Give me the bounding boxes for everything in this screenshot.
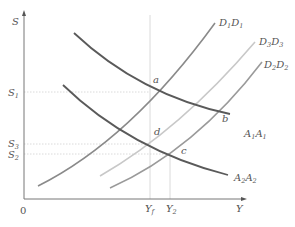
diagram-canvas: S Y 0 S1 S3 S2 Yf Y2 D1D1 D3D3 D2D2 A1A1… xyxy=(0,0,295,227)
curve-d3d3 xyxy=(100,42,255,176)
point-c: c xyxy=(181,145,187,156)
tick-y2: Y2 xyxy=(166,203,177,216)
x-axis-label: Y xyxy=(236,203,244,214)
tick-s1: S1 xyxy=(8,87,19,100)
curve-d2d2 xyxy=(110,62,262,188)
label-d2d2: D2D2 xyxy=(263,59,288,72)
label-a1a1: A1A1 xyxy=(243,128,267,141)
axes xyxy=(24,14,243,199)
label-d3d3: D3D3 xyxy=(258,36,283,49)
label-d1d1: D1D1 xyxy=(218,17,243,30)
y-axis-arrow-icon xyxy=(22,10,26,16)
y-axis-label: S xyxy=(12,16,19,27)
point-a: a xyxy=(153,74,159,85)
curve-a1a1 xyxy=(74,33,230,114)
x-axis-arrow-icon xyxy=(241,197,247,201)
label-a2a2: A2A2 xyxy=(233,172,257,185)
point-b: b xyxy=(222,113,228,124)
curve-d1d1 xyxy=(38,23,215,186)
tick-yf: Yf xyxy=(145,203,156,216)
point-d: d xyxy=(154,126,160,137)
guide-lines xyxy=(24,15,170,199)
origin-label: 0 xyxy=(20,205,26,216)
curve-a2a2 xyxy=(63,85,228,175)
